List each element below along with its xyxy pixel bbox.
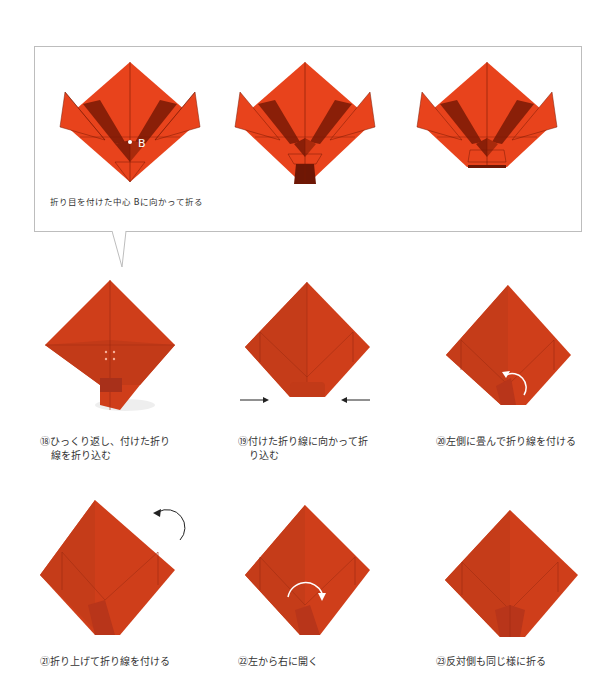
step-22-photo [240, 505, 380, 640]
push-arrow-right-icon [341, 397, 370, 403]
step-19-caption: ⑲付けた折り線に向かって折 り込む [238, 435, 418, 463]
diagram-fold-toward-b-3 [412, 62, 562, 172]
point-b-label: B [138, 137, 146, 150]
step-21-caption: ㉑折り上げて折り線を付ける [40, 655, 220, 669]
push-arrow-left-icon [240, 397, 269, 403]
step-23-photo [440, 505, 580, 640]
diagram-fold-toward-b-2 [230, 62, 380, 184]
step-number: ⑳ [436, 436, 446, 447]
step-18-caption: ⑱ひっくり返し、付けた折り 線を折り込む [40, 435, 220, 463]
diagram-fold-toward-b-1: B [55, 62, 205, 182]
step-23-caption: ㉓反対側も同じ様に折る [436, 655, 606, 669]
step-number: ⑱ [40, 436, 50, 447]
step-number: ⑲ [238, 436, 248, 447]
step-number: ㉑ [40, 656, 50, 667]
callout-caption: 折り目を付けた中心 Bに向かって折る [50, 195, 203, 207]
step-20-photo [436, 280, 576, 415]
step-20-caption: ⑳左側に畳んで折り線を付ける [436, 435, 606, 449]
step-number: ㉓ [436, 656, 446, 667]
step-number: ㉒ [238, 656, 248, 667]
step-22-caption: ㉒左から右に開く [238, 655, 418, 669]
step-18-photo [45, 280, 185, 415]
step-21-photo [40, 500, 190, 640]
fold-up-arrow-icon [153, 509, 185, 540]
step-19-photo [235, 282, 375, 417]
callout-tail [112, 231, 136, 267]
